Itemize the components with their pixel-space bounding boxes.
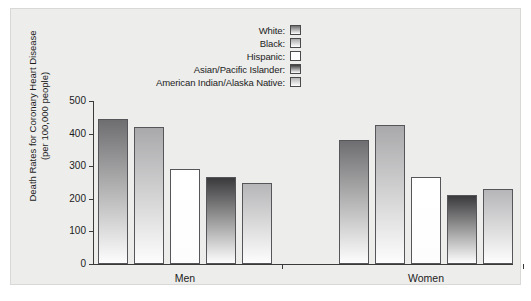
bar-men-3 <box>206 177 236 264</box>
bar-women-0 <box>339 140 369 264</box>
y-axis-title-line1: Death Rates for Coronary Heart Disease <box>27 16 39 216</box>
x-axis-group-tick-0 <box>282 264 283 269</box>
x-axis-line <box>93 264 513 265</box>
bar-women-4 <box>483 189 513 264</box>
x-axis-label-men: Men <box>175 272 195 284</box>
y-axis-title-line2: (per 100,000 people) <box>39 16 51 216</box>
bar-women-3 <box>447 195 477 264</box>
y-axis-line <box>93 101 94 264</box>
x-axis-group-tick-1 <box>523 264 524 269</box>
bar-men-2 <box>170 169 200 264</box>
y-tick-label-400: 400 <box>56 128 86 139</box>
bar-men-4 <box>242 183 272 264</box>
bar-men-1 <box>134 127 164 264</box>
y-axis-title: Death Rates for Coronary Heart Disease (… <box>27 16 51 216</box>
bar-women-2 <box>411 177 441 264</box>
bar-women-1 <box>375 125 405 264</box>
bar-men-0 <box>98 119 128 264</box>
chart-figure: White: Black: Hispanic: Asian/Pacific Is… <box>10 8 521 285</box>
y-tick-label-0: 0 <box>56 258 86 269</box>
y-tick-label-300: 300 <box>56 160 86 171</box>
plot-area: Death Rates for Coronary Heart Disease (… <box>11 9 522 286</box>
y-tick-label-500: 500 <box>56 95 86 106</box>
y-tick-label-200: 200 <box>56 193 86 204</box>
x-axis-label-women: Women <box>408 272 444 284</box>
y-tick-label-100: 100 <box>56 225 86 236</box>
